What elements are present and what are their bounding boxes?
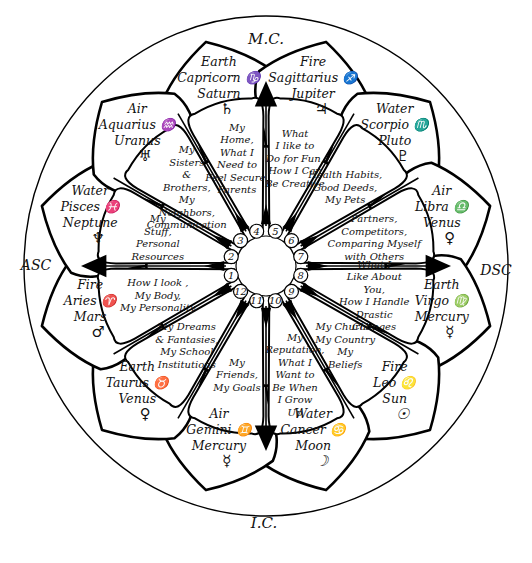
house-number-5: 5 (272, 226, 278, 237)
ruler-glyph-icon: ♄ (220, 100, 233, 118)
house-text-line: My (228, 122, 245, 133)
ruler-text: Moon (294, 438, 331, 453)
element-text: Earth (118, 359, 155, 374)
ruler-text: Venus (423, 215, 461, 230)
sign-text: Capricorn ♑ (177, 70, 263, 85)
element-text: Air (431, 183, 452, 198)
house-text-line: What I (357, 259, 392, 270)
sign-text: Aries ♈ (63, 293, 119, 308)
ruler-glyph-icon: ♀ (140, 405, 151, 423)
ruler-glyph-icon: ♆ (91, 229, 104, 247)
house-text-line: Need to (216, 159, 257, 170)
ruler-glyph-icon: ☿ (222, 452, 231, 470)
ruler-glyph-icon: ♇ (396, 147, 409, 165)
ruler-text: Jupiter (288, 86, 335, 101)
house-number-1: 1 (228, 270, 234, 281)
house-number-9: 9 (288, 286, 295, 297)
house-text-line: Beliefs (327, 359, 362, 370)
ruler-text: Uranus (114, 133, 160, 148)
ruler-text: Sun (382, 391, 407, 406)
sign-text: Cancer ♋ (280, 422, 347, 437)
house-text-line: I like to (275, 140, 315, 151)
astrology-house-wheel: 123456789101112 M.C. I.C. ASC DSC EarthC… (0, 0, 532, 563)
mc-label: M.C. (247, 30, 284, 48)
house-number-10: 10 (269, 295, 282, 306)
house-text-line: My (228, 357, 245, 368)
house-text-line: My (336, 346, 353, 357)
element-text: Fire (381, 359, 408, 374)
ruler-text: Venus (118, 391, 156, 406)
sign-text: Scorpio ♏ (360, 117, 431, 132)
house-number-11: 11 (250, 295, 263, 306)
house-text-line: My Goals (212, 382, 260, 393)
ruler-glyph-icon: ♃ (314, 100, 327, 118)
sign-text: Taurus ♉ (106, 375, 171, 390)
house-text-line: Health Habits, (307, 169, 382, 180)
house-text-line: Competitors, (341, 226, 407, 237)
house-text-line: & (182, 169, 191, 180)
house-text-line: Communication (147, 219, 227, 230)
element-text: Water (71, 183, 110, 198)
sign-text: Gemini ♊ (186, 422, 253, 437)
house-text-line: My Pets (324, 194, 365, 205)
house-text-line: My Church, (314, 321, 375, 332)
house-number-12: 12 (234, 286, 247, 297)
element-text: Fire (299, 54, 326, 69)
house-text-line: Up (288, 407, 303, 418)
ruler-glyph-icon: ☿ (445, 323, 454, 341)
house-text-line: Resources (131, 251, 184, 262)
house-text-line: Comparing Myself (328, 238, 424, 249)
sign-text: Sagittarius ♐ (268, 70, 360, 85)
sign-text: Leo ♌ (372, 375, 418, 390)
house-text-line: My Personality (119, 302, 196, 313)
element-text: Earth (423, 277, 460, 292)
house-text-line: What I (220, 147, 255, 158)
house-text-line: My (286, 332, 303, 343)
ruler-glyph-icon: ☽ (315, 452, 329, 470)
house-text-line: Want to (275, 369, 314, 380)
house-text-line: Personal (135, 238, 180, 249)
house-text-line: Neighbors, (158, 207, 215, 218)
house-text-line: I Grow (277, 394, 313, 405)
house-text-line: Institutions (157, 359, 216, 370)
house-text-line: Like About (346, 271, 403, 282)
element-text: Air (127, 101, 148, 116)
ruler-glyph-icon: ☉ (396, 405, 410, 423)
house-text-line: Brothers, (162, 182, 211, 193)
house-text-line: Parents (217, 184, 257, 195)
house-text-line: Reputation, (264, 344, 324, 355)
ruler-text: Pluto (377, 133, 411, 148)
ruler-glyph-icon: ♅ (139, 147, 152, 165)
house-text-line: My (178, 194, 195, 205)
house-text-line: Feel Secure, (204, 172, 268, 183)
house-number-2: 2 (227, 251, 234, 262)
house-text-line: Home, (219, 134, 253, 145)
element-text: Earth (200, 54, 237, 69)
house-text-line: Partners, (350, 213, 398, 224)
house-number-7: 7 (298, 251, 305, 262)
house-number-4: 4 (252, 226, 259, 237)
house-text-line: & Fantasies, (155, 334, 218, 345)
ruler-text: Mercury (191, 438, 247, 453)
dsc-label: DSC (479, 262, 512, 278)
house-text-line: What I (278, 357, 313, 368)
house-number-3: 3 (237, 235, 243, 246)
sign-text: Virgo ♍ (415, 293, 471, 308)
house-text-line: You, (363, 284, 384, 295)
ruler-text: Mercury (414, 309, 470, 324)
element-text: Fire (76, 277, 103, 292)
house-text-line: My Dreams (157, 321, 216, 332)
house-text-line: Good Deeds, (313, 182, 377, 193)
sign-text: Pisces ♓ (59, 199, 122, 214)
house-text-line: How I look , (126, 277, 188, 288)
element-text: Air (208, 406, 229, 421)
house-text-line: Friends, (215, 369, 258, 380)
house-text-line: My Body, (134, 290, 181, 301)
ruler-text: Neptune (62, 215, 118, 230)
house-number-8: 8 (298, 270, 304, 281)
house-text-line: Sisters (169, 157, 204, 168)
house-text-12: My Dreams& Fantasies,My SchoolInstitutio… (155, 321, 218, 370)
ruler-glyph-icon: ♂ (91, 323, 104, 341)
ruler-text: Saturn (197, 86, 240, 101)
house-text-line: Drastic (355, 309, 393, 320)
